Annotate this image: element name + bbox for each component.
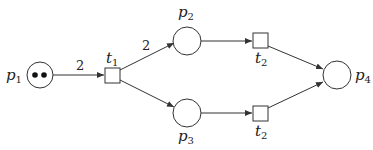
- place-label-p1: p1: [6, 66, 22, 85]
- place-label-p4: p4: [355, 66, 371, 85]
- transition-t1: [105, 68, 120, 83]
- place-p3: [173, 99, 201, 127]
- transition-label-t1: t1: [106, 49, 118, 68]
- arc-weight-t1-p2: 2: [142, 38, 150, 53]
- arc-t2b-p4: [268, 82, 323, 108]
- petri-net-diagram: 2 2 p1 p2 p3 p4 t1 t2 t2: [0, 0, 373, 150]
- place-p2: [173, 27, 201, 55]
- transition-t2-upper: [253, 33, 268, 48]
- token: [32, 72, 38, 78]
- place-p4: [323, 61, 351, 89]
- place-label-p2: p2: [178, 3, 194, 22]
- place-p1: [27, 62, 53, 88]
- transition-label-t2-upper: t2: [255, 49, 267, 68]
- arc-weight-p1-t1: 2: [76, 58, 84, 73]
- arc-t1-p3: [120, 80, 174, 107]
- transition-label-t2-lower: t2: [255, 122, 267, 141]
- arc-t2a-p4: [268, 46, 323, 69]
- place-label-p3: p3: [178, 127, 194, 146]
- transition-t2-lower: [253, 106, 268, 121]
- token: [41, 72, 47, 78]
